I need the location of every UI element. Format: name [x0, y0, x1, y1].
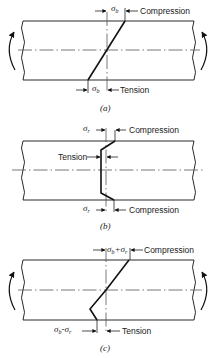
bottom-diff-label: σb-σr	[54, 324, 72, 335]
beam-left-break	[22, 141, 25, 200]
top-sum-label: σb+σr	[107, 244, 128, 255]
panel-b: σr Compression Tension σr Compression (b…	[12, 123, 204, 231]
top-sigma-r-label: σr	[83, 123, 90, 134]
panel-c: σb+σr Compression σb-σr Tension (c)	[9, 244, 207, 353]
beam-left-break	[22, 21, 25, 80]
tension-label: Tension	[122, 326, 152, 336]
compression-label: Compression	[144, 245, 194, 255]
caption-b: (b)	[100, 221, 111, 231]
top-sigma-label: σb	[111, 3, 118, 14]
caption-c: (c)	[100, 343, 110, 353]
moment-arrow-right-icon	[201, 32, 207, 70]
beam-right-break	[193, 141, 196, 200]
beam-right-break	[193, 21, 196, 80]
compression-label: Compression	[140, 6, 190, 16]
caption-a: (a)	[100, 103, 111, 113]
panel-a: σb Compression σb Tension (a)	[9, 3, 207, 113]
bottom-sigma-r-label: σr	[83, 203, 90, 214]
moment-arrow-left-icon	[9, 272, 15, 310]
moment-arrow-right-icon	[201, 272, 207, 310]
bottom-sigma-label: σb	[92, 83, 99, 94]
tension-label: Tension	[58, 152, 88, 162]
stress-line	[88, 21, 125, 80]
tension-label: Tension	[120, 85, 150, 95]
stress-diagram: σb Compression σb Tension (a) σr Compres…	[0, 0, 216, 358]
moment-arrow-left-icon	[9, 32, 15, 70]
compression-top-label: Compression	[129, 125, 179, 135]
residual-stress-line	[101, 141, 115, 200]
compression-bottom-label: Compression	[129, 205, 179, 215]
